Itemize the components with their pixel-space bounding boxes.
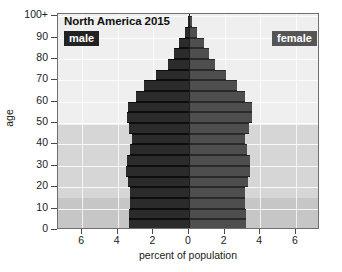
bar-male-55-59 (128, 102, 189, 113)
bar-female-80-84 (189, 48, 209, 59)
bar-male-45-49 (129, 123, 189, 134)
bar-male-25-29 (126, 166, 189, 177)
x-axis-title: percent of population (57, 249, 319, 261)
x-tick-mark (117, 229, 118, 234)
bar-male-40-44 (132, 134, 189, 145)
x-tick-label: 4 (248, 234, 270, 246)
y-tick-label: 90 (8, 30, 48, 42)
bar-male-15-19 (130, 187, 189, 198)
bar-female-10-14 (189, 198, 245, 209)
legend-tag-female: female (272, 31, 317, 46)
bar-male-0-4 (129, 219, 189, 229)
chart-title: North America 2015 (64, 15, 170, 27)
bar-male-35-39 (130, 144, 189, 155)
bar-female-70-74 (189, 70, 226, 81)
bar-male-75-79 (168, 59, 189, 70)
y-tick-label: 30 (8, 158, 48, 170)
bar-female-90-94 (189, 27, 197, 38)
bar-male-20-24 (128, 177, 189, 188)
y-tick-label: 60 (8, 94, 48, 106)
bar-male-60-64 (136, 91, 189, 102)
bar-female-15-19 (189, 187, 245, 198)
gridline-vertical (82, 14, 83, 228)
bar-female-20-24 (189, 177, 248, 188)
bar-male-85-89 (179, 38, 189, 49)
x-tick-label: 2 (213, 234, 235, 246)
bar-female-85-89 (189, 38, 204, 49)
y-tick-label: 40 (8, 136, 48, 148)
bar-male-5-9 (129, 209, 189, 220)
x-tick-label: 2 (141, 234, 163, 246)
legend-tag-male: male (64, 31, 99, 46)
bar-female-65-69 (189, 80, 237, 91)
x-tick-label: 6 (284, 234, 306, 246)
bar-female-30-34 (189, 155, 250, 166)
x-tick-mark (295, 229, 296, 234)
y-tick-label: 70 (8, 72, 48, 84)
y-tick-label: 10 (8, 201, 48, 213)
bar-female-35-39 (189, 144, 247, 155)
x-tick-mark (259, 229, 260, 234)
y-tick-label: 20 (8, 179, 48, 191)
x-tick-mark (81, 229, 82, 234)
y-tick-mark (51, 229, 57, 230)
bar-female-50-54 (189, 112, 252, 123)
bar-female-25-29 (189, 166, 250, 177)
x-tick-label: 4 (106, 234, 128, 246)
bar-female-0-4 (189, 219, 246, 229)
bar-male-70-74 (156, 70, 189, 81)
x-tick-mark (152, 229, 153, 234)
x-tick-label: 0 (177, 234, 199, 246)
bar-female-40-44 (189, 134, 245, 145)
x-tick-label: 6 (70, 234, 92, 246)
bar-female-55-59 (189, 102, 252, 113)
bar-female-60-64 (189, 91, 245, 102)
center-axis-line (189, 14, 190, 228)
x-tick-mark (224, 229, 225, 234)
x-tick-mark (188, 229, 189, 234)
y-tick-label: 80 (8, 51, 48, 63)
bar-female-75-79 (189, 59, 215, 70)
bar-male-30-34 (127, 155, 189, 166)
bar-male-80-84 (174, 48, 189, 59)
bar-male-10-14 (130, 198, 189, 209)
bar-female-45-49 (189, 123, 249, 134)
gridline-vertical (296, 14, 297, 228)
gridline-vertical (118, 14, 119, 228)
population-pyramid-figure: age 0102030405060708090100+ North Americ… (0, 0, 342, 272)
y-tick-label: 0 (8, 222, 48, 234)
bar-female-5-9 (189, 209, 246, 220)
bar-male-65-69 (144, 80, 189, 91)
bar-male-50-54 (127, 112, 189, 123)
y-tick-label: 100+ (8, 8, 48, 20)
y-tick-label: 50 (8, 115, 48, 127)
gridline-vertical (260, 14, 261, 228)
